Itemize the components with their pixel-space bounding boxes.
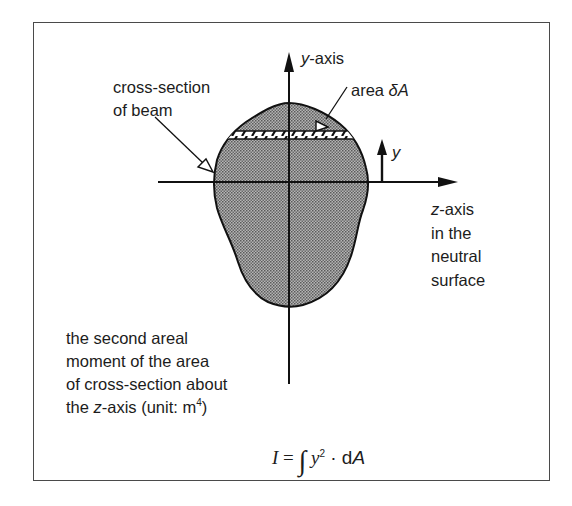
integral-symbol: ∫ [299, 445, 307, 476]
cross-section-leader [155, 117, 213, 172]
arrow-up-icon [377, 139, 387, 155]
second-moment-formula: I = ∫ y2 · dA [272, 447, 365, 472]
y-distance-label: y [392, 141, 400, 163]
area-label: area δA [351, 79, 409, 101]
z-axis-arrowhead-icon [438, 177, 458, 187]
y-distance-arrow [377, 139, 387, 182]
cross-section-label: cross-section of beam [113, 76, 210, 122]
second-moment-description: the second areal moment of the area of c… [66, 327, 227, 419]
z-axis-label: z-axis in the neutral surface [431, 198, 485, 292]
diagram-canvas [0, 0, 572, 506]
y-axis-arrowhead-icon [284, 52, 294, 72]
y-axis-label: y-axis [301, 47, 344, 69]
